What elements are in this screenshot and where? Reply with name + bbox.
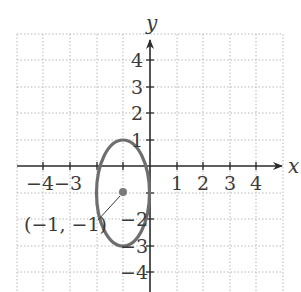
y-tick-label: 3 [131, 76, 143, 98]
x-tick-label: 2 [197, 172, 209, 194]
y-tick-label: −4 [120, 261, 148, 283]
y-tick-label: −3 [120, 235, 148, 257]
ellipse-graph: y x −4 −3 1 2 3 4 4 3 2 1 −2 −3 −4 (−1, … [0, 0, 301, 292]
x-tick-label: 1 [171, 172, 183, 194]
y-tick-label: 1 [131, 129, 143, 151]
y-tick-label: −2 [120, 208, 148, 230]
center-point [119, 188, 127, 196]
x-tick-label: 4 [250, 172, 262, 194]
y-axis-label: y [145, 11, 158, 35]
y-tick-label: 4 [131, 49, 143, 71]
x-tick-label: −4 [26, 172, 54, 194]
x-axis-label: x [288, 154, 299, 178]
x-tick-label: −3 [54, 172, 82, 194]
y-tick-label: 2 [131, 102, 143, 124]
center-point-label: (−1, −1) [24, 213, 107, 235]
x-tick-label: 3 [224, 172, 236, 194]
